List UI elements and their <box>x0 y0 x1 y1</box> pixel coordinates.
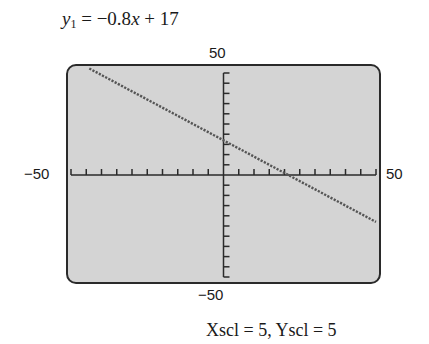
scale-label: Xscl = 5, Yscl = 5 <box>206 320 337 341</box>
calculator-screen <box>0 0 429 344</box>
